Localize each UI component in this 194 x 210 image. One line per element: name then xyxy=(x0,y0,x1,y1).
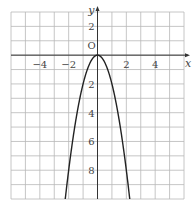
origin-label: O xyxy=(87,40,95,51)
y-tick-label: 2 xyxy=(88,21,94,32)
x-tick-label: 4 xyxy=(152,59,158,70)
x-tick-label: −4 xyxy=(32,59,47,70)
y-axis-label: y xyxy=(87,4,95,17)
y-tick-label: 2 xyxy=(88,79,94,90)
function-graph: −4−22422468Oxy xyxy=(0,0,194,210)
x-tick-label: 2 xyxy=(123,59,129,70)
y-axis-arrow-icon xyxy=(96,6,100,11)
y-tick-label: 4 xyxy=(88,108,94,119)
y-tick-label: 8 xyxy=(88,165,94,176)
y-tick-label: 6 xyxy=(88,136,94,147)
x-axis-label: x xyxy=(185,57,192,70)
x-tick-label: −2 xyxy=(61,59,76,70)
